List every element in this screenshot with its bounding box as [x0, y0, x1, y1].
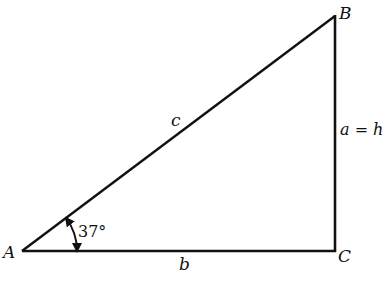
side-c-label: c	[171, 110, 181, 130]
vertex-a-label: A	[1, 242, 15, 262]
hypotenuse-c	[22, 16, 335, 251]
vertex-c-label: C	[338, 246, 351, 266]
right-triangle-diagram: A B C c b a = h 37°	[0, 0, 387, 300]
vertex-b-label: B	[338, 3, 352, 23]
angle-arc-37	[66, 218, 77, 251]
side-b-label: b	[179, 254, 190, 274]
side-a-label: a = h	[340, 120, 383, 139]
angle-label: 37°	[78, 222, 106, 241]
